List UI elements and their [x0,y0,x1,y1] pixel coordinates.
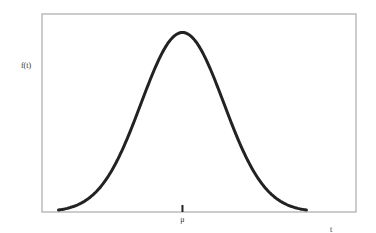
x-axis-label: t [330,225,333,233]
density-curve [59,32,307,210]
y-axis-label: f(t) [21,61,32,70]
x-tick-label-mu: μ [180,215,184,224]
chart: μ f(t) t [0,0,376,233]
